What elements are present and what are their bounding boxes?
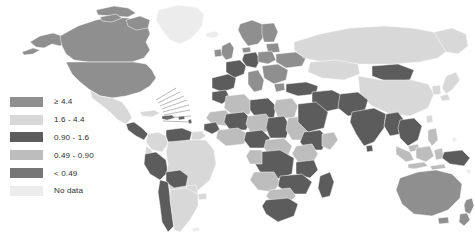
country-poland [258, 51, 276, 64]
country-egypt [274, 98, 298, 118]
country-kazakhstan [308, 60, 360, 80]
country-japan [442, 72, 460, 94]
legend-row: No data [10, 182, 106, 200]
leader-line [156, 88, 176, 100]
country-alaska [30, 33, 66, 48]
legend-swatch-0 [10, 97, 43, 107]
country-ireland [214, 49, 222, 57]
legend-label-1: 1.6 - 4.4 [54, 115, 85, 124]
legend-label-5: No data [54, 186, 83, 195]
legend-label-0: ≥ 4.4 [54, 97, 72, 106]
legend-label-3: 0.49 - 0.90 [54, 151, 94, 160]
country-falklands [192, 227, 200, 232]
legend-swatch-4 [10, 168, 43, 178]
legend-row: 0.90 - 1.6 [10, 129, 106, 147]
country-madagascar [318, 172, 334, 198]
country-sri-lanka [366, 145, 373, 152]
legend-row: 1.6 - 4.4 [10, 111, 106, 129]
legend-row: ≥ 4.4 [10, 93, 106, 111]
country-philippines [428, 128, 438, 146]
legend-swatch-3 [10, 150, 43, 160]
leader-line [158, 92, 180, 103]
country-central-america [126, 122, 148, 140]
country-angola [250, 172, 280, 192]
country-italy [248, 70, 264, 92]
country-south-africa [262, 198, 298, 222]
leader-line [162, 100, 187, 109]
country-guyanas [191, 131, 206, 140]
country-taiwan [426, 115, 433, 123]
country-united-kingdom [221, 42, 234, 60]
country-papua-new-guinea [442, 150, 470, 166]
country-aleutians [22, 48, 40, 55]
country-java [408, 162, 428, 169]
country-lesser-sunda [430, 164, 446, 170]
country-lesser-antilles [188, 119, 192, 124]
country-iceland [206, 31, 220, 38]
country-tasmania [438, 217, 449, 224]
country-new-zealand [464, 198, 474, 214]
country-spain-portugal [212, 74, 236, 92]
country-india [350, 108, 386, 146]
region-oceania [396, 137, 474, 226]
country-pacific-island [452, 137, 457, 142]
country-somalia [322, 132, 338, 150]
country-japan-south [440, 94, 450, 101]
country-korea [432, 85, 441, 95]
region-europe [212, 20, 318, 96]
leader-line [160, 96, 184, 106]
country-gabon-congo [246, 150, 262, 164]
country-new-zealand-south [459, 213, 470, 226]
country-nigeria-west [216, 128, 248, 146]
country-finland [262, 23, 278, 42]
country-uruguay [198, 193, 207, 200]
legend-swatch-5 [10, 186, 43, 196]
country-greece [274, 83, 285, 92]
world-map-figure: ≥ 4.4 1.6 - 4.4 0.90 - 1.6 0.49 - 0.90 <… [0, 0, 475, 241]
legend-label-4: < 0.49 [54, 169, 77, 178]
country-denmark [242, 47, 251, 53]
legend-row: < 0.49 [10, 164, 106, 182]
leader-line [163, 121, 190, 122]
country-cuba [140, 110, 160, 117]
legend-swatch-1 [10, 115, 43, 125]
country-borneo [416, 146, 434, 162]
map-legend: ≥ 4.4 1.6 - 4.4 0.90 - 1.6 0.49 - 0.90 <… [10, 93, 106, 200]
country-argentina [170, 188, 198, 232]
country-greenland [156, 5, 204, 44]
region-south-america [144, 128, 216, 232]
country-peru [144, 152, 168, 180]
legend-label-2: 0.90 - 1.6 [54, 133, 89, 142]
country-pacific-island [466, 169, 471, 174]
country-thailand-indochina [398, 118, 422, 146]
legend-row: 0.49 - 0.90 [10, 146, 106, 164]
legend-swatch-2 [10, 132, 43, 142]
country-australia [396, 170, 462, 216]
country-russia [294, 26, 448, 64]
